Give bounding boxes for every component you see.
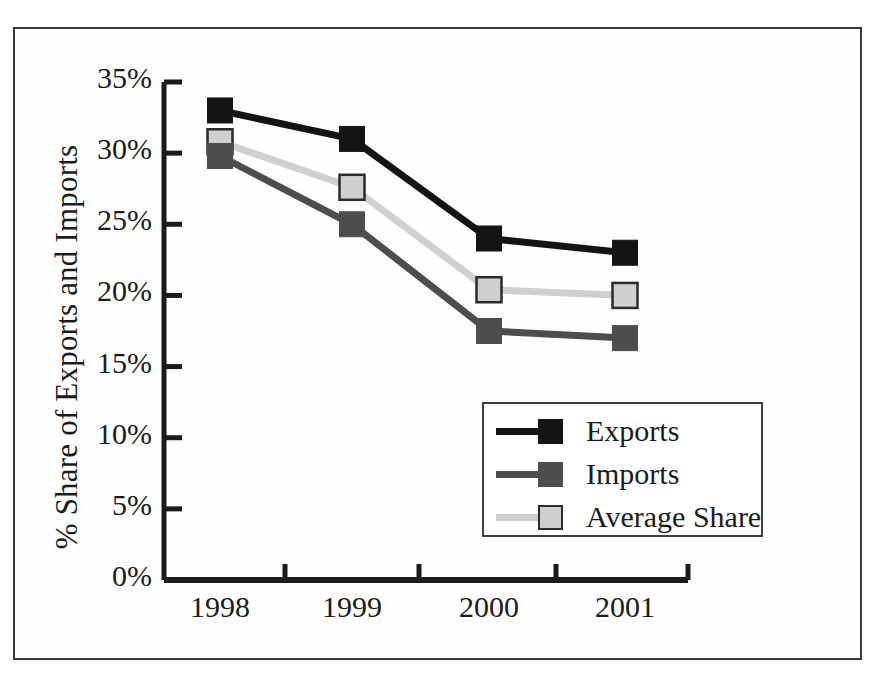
chart-figure: % Share of Exports and Imports 0%5%10%15… xyxy=(0,0,890,691)
legend-marker-sample xyxy=(538,462,563,487)
legend-item-imports[interactable]: Imports xyxy=(484,451,761,496)
data-point-marker xyxy=(340,175,365,200)
data-point-marker xyxy=(208,143,233,168)
legend-item-exports[interactable]: Exports xyxy=(484,408,761,453)
data-point-marker xyxy=(208,98,233,123)
legend-item-average-share[interactable]: Average Share xyxy=(484,494,761,539)
legend-swatch xyxy=(494,454,586,494)
data-point-marker xyxy=(340,212,365,237)
figure-frame: % Share of Exports and Imports 0%5%10%15… xyxy=(13,27,862,660)
legend-swatch xyxy=(494,411,586,451)
series-line xyxy=(220,111,625,253)
data-point-marker xyxy=(477,226,502,251)
data-point-marker xyxy=(613,326,638,351)
data-point-marker xyxy=(477,319,502,344)
data-point-marker xyxy=(340,126,365,151)
data-point-marker xyxy=(613,240,638,265)
series-line xyxy=(220,142,625,296)
legend-label: Average Share xyxy=(586,502,761,532)
line-chart-plot xyxy=(15,29,860,658)
legend-marker-sample xyxy=(538,419,563,444)
data-point-marker xyxy=(477,277,502,302)
legend-label: Imports xyxy=(586,459,679,489)
data-point-marker xyxy=(613,283,638,308)
legend-marker-sample xyxy=(538,505,563,530)
chart-legend: ExportsImportsAverage Share xyxy=(482,402,763,537)
legend-label: Exports xyxy=(586,416,679,446)
legend-swatch xyxy=(494,497,586,537)
